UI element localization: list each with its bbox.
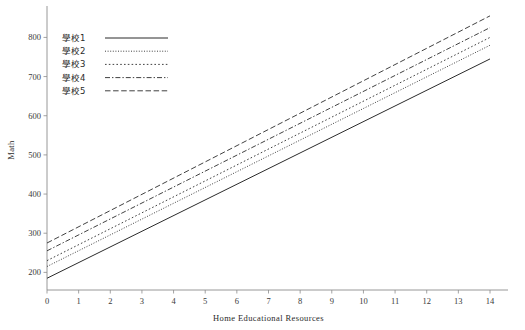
x-tick-label: 14 bbox=[486, 296, 495, 306]
series-line-3 bbox=[47, 37, 490, 260]
y-tick-label: 800 bbox=[28, 32, 41, 42]
y-tick-label: 200 bbox=[28, 267, 41, 277]
series-line-5 bbox=[47, 16, 490, 243]
x-tick-label: 7 bbox=[266, 296, 270, 306]
x-tick-label: 1 bbox=[77, 296, 81, 306]
series-group bbox=[47, 16, 490, 278]
y-axis-title: Math bbox=[6, 140, 16, 160]
legend-label-1: 學校1 bbox=[62, 33, 85, 43]
y-tick-label: 700 bbox=[28, 72, 41, 82]
x-tick-label: 6 bbox=[235, 296, 239, 306]
x-tick-label: 0 bbox=[45, 296, 49, 306]
x-tick-label: 13 bbox=[454, 296, 463, 306]
x-tick-label: 2 bbox=[108, 296, 112, 306]
x-tick-label: 10 bbox=[359, 296, 368, 306]
y-tick-label: 400 bbox=[28, 189, 41, 199]
series-line-2 bbox=[47, 45, 490, 266]
x-tick-label: 11 bbox=[391, 296, 399, 306]
x-tick-label: 5 bbox=[203, 296, 207, 306]
legend-label-2: 學校2 bbox=[62, 46, 85, 56]
line-chart-plot: 2003004005006007008000123456789101112131… bbox=[0, 0, 525, 330]
series-line-1 bbox=[47, 59, 490, 278]
legend-label-5: 學校5 bbox=[62, 86, 85, 96]
legend-label-3: 學校3 bbox=[62, 59, 85, 69]
x-tick-label: 9 bbox=[330, 296, 334, 306]
legend-label-4: 學校4 bbox=[62, 73, 85, 83]
chart-container: 2003004005006007008000123456789101112131… bbox=[0, 0, 525, 330]
y-tick-label: 300 bbox=[28, 228, 41, 238]
y-tick-label: 500 bbox=[28, 150, 41, 160]
x-tick-label: 12 bbox=[422, 296, 431, 306]
x-tick-label: 3 bbox=[140, 296, 144, 306]
series-line-4 bbox=[47, 28, 490, 251]
axes-group bbox=[44, 6, 509, 294]
chart-legend: 學校1學校2學校3學校4學校5 bbox=[62, 33, 168, 96]
x-tick-label: 4 bbox=[171, 296, 176, 306]
y-tick-label: 600 bbox=[28, 111, 41, 121]
x-tick-label: 8 bbox=[298, 296, 302, 306]
x-axis-title: Home Educational Resources bbox=[213, 313, 324, 323]
